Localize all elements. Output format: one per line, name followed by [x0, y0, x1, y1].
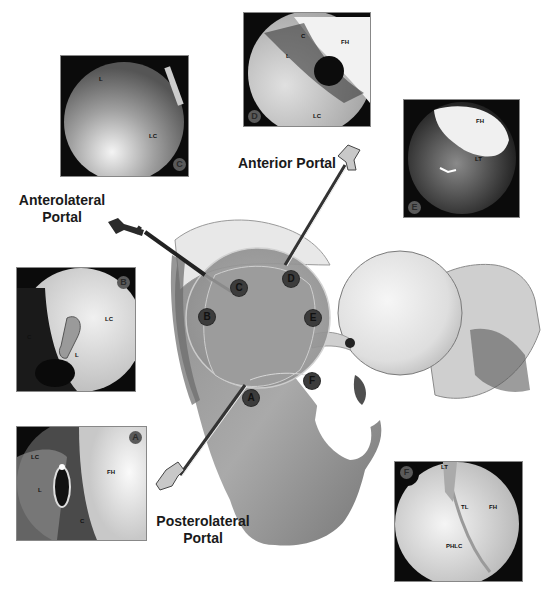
badge-c: C	[173, 158, 186, 171]
arthroscopic-view-a: LC FH L C A	[16, 426, 147, 541]
label-l: L	[286, 53, 290, 59]
badge-a: A	[129, 431, 142, 444]
label-lc: LC	[149, 133, 157, 139]
femoral-head	[338, 251, 462, 375]
label-lc: LC	[105, 316, 113, 322]
marker-c: C	[231, 280, 247, 296]
posterolateral-portal-label: Posterolateral Portal	[148, 513, 258, 547]
arthroscopic-view-b: C LC L B	[16, 267, 136, 392]
label-phlc: PHLC	[446, 543, 462, 549]
label-c: C	[27, 334, 31, 340]
badge-e: E	[408, 201, 421, 214]
label-tl: TL	[461, 504, 468, 510]
marker-e: E	[305, 310, 321, 326]
marker-a: A	[243, 390, 259, 406]
label-l: L	[75, 352, 79, 358]
label-l: L	[38, 487, 42, 493]
label-lt: LT	[441, 464, 448, 470]
label-lt: LT	[475, 156, 482, 162]
label-c: C	[301, 33, 305, 39]
label-lc: LC	[31, 454, 39, 460]
marker-d: D	[283, 271, 299, 287]
badge-b: B	[117, 276, 130, 289]
label-l: L	[99, 76, 103, 82]
label-fh: FH	[107, 469, 115, 475]
label-fh: FH	[489, 504, 497, 510]
marker-b: B	[199, 309, 215, 325]
badge-f: F	[400, 466, 413, 479]
arthroscopic-view-c: L LC C	[60, 55, 189, 177]
label-lc: LC	[313, 113, 321, 119]
anterior-portal-label: Anterior Portal	[232, 155, 342, 172]
label-fh: FH	[341, 39, 349, 45]
label-fh: FH	[476, 118, 484, 124]
arthroscopic-view-d: C FH L LC D	[243, 12, 371, 127]
badge-d: D	[248, 110, 261, 123]
arthroscopic-view-e: FH LT E	[403, 99, 520, 218]
anterolateral-portal-label: Anterolateral Portal	[14, 192, 110, 226]
label-c: C	[80, 518, 84, 524]
marker-f: F	[304, 373, 320, 389]
arthroscopic-view-f: LT TL FH PHLC F	[394, 461, 523, 582]
